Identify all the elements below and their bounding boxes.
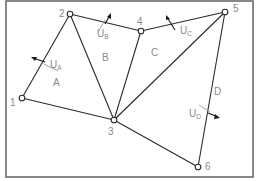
region-labels: A B C D bbox=[53, 47, 221, 97]
node-4 bbox=[138, 28, 144, 34]
node-6 bbox=[195, 164, 201, 170]
edge-1-2 bbox=[22, 14, 70, 98]
edges bbox=[22, 12, 225, 167]
node-label-2: 2 bbox=[59, 8, 65, 19]
edge-1-3 bbox=[22, 98, 114, 120]
velocity-label-c: UC bbox=[180, 25, 192, 37]
edge-2-3 bbox=[70, 14, 114, 120]
region-label-d: D bbox=[214, 86, 221, 97]
node-2 bbox=[67, 11, 73, 17]
node-label-4: 4 bbox=[137, 16, 143, 27]
node-label-1: 1 bbox=[10, 97, 16, 108]
kinematic-mechanism-diagram: UA UB UC UD A B C D 1 2 3 4 5 6 bbox=[0, 0, 261, 181]
node-3 bbox=[111, 117, 117, 123]
velocity-label-d: UD bbox=[189, 108, 201, 120]
velocity-labels: UA UB UC UD bbox=[50, 25, 201, 120]
velocity-label-b: UB bbox=[97, 28, 109, 40]
node-label-5: 5 bbox=[233, 3, 239, 14]
node-5 bbox=[222, 9, 228, 15]
velocity-marker-d bbox=[199, 105, 220, 119]
region-label-a: A bbox=[53, 77, 60, 88]
velocity-marker-c bbox=[166, 15, 175, 30]
node-1 bbox=[19, 95, 25, 101]
velocity-label-a: UA bbox=[50, 59, 62, 71]
region-label-b: B bbox=[102, 52, 109, 63]
node-label-6: 6 bbox=[205, 161, 211, 172]
region-label-c: C bbox=[151, 47, 158, 58]
edge-3-6 bbox=[114, 120, 198, 167]
node-labels: 1 2 3 4 5 6 bbox=[10, 3, 239, 172]
node-label-3: 3 bbox=[108, 126, 114, 137]
